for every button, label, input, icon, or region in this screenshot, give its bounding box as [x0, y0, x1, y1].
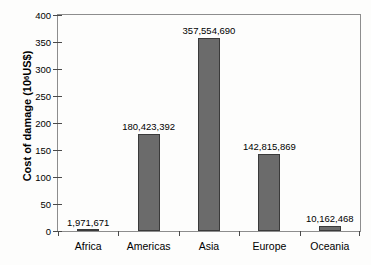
x-tick-label: Europe	[252, 240, 286, 252]
x-tick-mark	[179, 231, 180, 236]
y-tick-mark-inner	[58, 123, 62, 124]
x-tick-mark	[359, 231, 360, 236]
x-tick-mark	[58, 231, 59, 236]
bar	[198, 38, 220, 231]
y-axis-title-suffix: US$)	[21, 51, 33, 76]
y-tick-mark-inner	[58, 204, 62, 205]
bar-value-label: 357,554,690	[183, 25, 236, 36]
plot-area: 050100150200250300350400 AfricaAmericasA…	[57, 14, 361, 232]
bar-value-label: 142,815,869	[243, 141, 296, 152]
y-tick-label: 300	[35, 64, 51, 75]
bar	[138, 134, 160, 231]
x-tick-mark	[118, 231, 119, 236]
y-tick-mark-inner	[58, 150, 62, 151]
y-tick-mark-inner	[58, 177, 62, 178]
y-tick-mark-inner	[58, 42, 62, 43]
x-tick-mark	[300, 231, 301, 236]
bar	[77, 229, 99, 231]
y-tick-mark-inner	[58, 96, 62, 97]
bar-value-label: 1,971,671	[67, 217, 109, 228]
y-tick-label: 150	[35, 145, 51, 156]
y-axis-title: Cost of damage (106 US$)	[18, 0, 36, 232]
x-tick-label: Americas	[127, 240, 171, 252]
x-tick-label: Oceania	[310, 240, 349, 252]
y-tick-label: 400	[35, 10, 51, 21]
x-tick-mark	[239, 231, 240, 236]
y-tick-label: 250	[35, 91, 51, 102]
y-tick-label: 350	[35, 37, 51, 48]
bar	[319, 226, 341, 231]
y-tick-mark-inner	[58, 15, 62, 16]
x-tick-label: Asia	[199, 240, 219, 252]
bar-value-label: 180,423,392	[122, 121, 175, 132]
y-tick-label: 100	[35, 172, 51, 183]
bar-chart: Cost of damage (106 US$) 050100150200250…	[0, 0, 371, 265]
y-tick-label: 50	[40, 199, 51, 210]
x-tick-label: Africa	[75, 240, 102, 252]
y-tick-label: 0	[46, 226, 51, 237]
bar	[258, 154, 280, 231]
bar-value-label: 10,162,468	[306, 213, 354, 224]
y-tick-label: 200	[35, 118, 51, 129]
y-axis-title-prefix: Cost of damage (10	[21, 80, 33, 181]
y-tick-mark-inner	[58, 69, 62, 70]
